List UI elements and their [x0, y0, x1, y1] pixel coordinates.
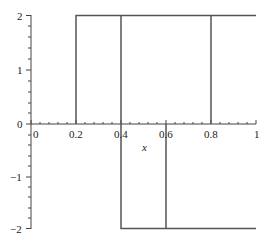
x-ticks [31, 120, 256, 124]
y-tick-label: 0 [17, 118, 23, 130]
y-tick-label: −2 [10, 223, 22, 235]
y-ticks [26, 16, 31, 229]
x-tick-label: 0 [33, 128, 39, 140]
x-tick-label: 0.4 [114, 128, 128, 140]
x-tick-label: 1 [254, 128, 260, 140]
series-step-1 [76, 16, 256, 125]
y-tick-label: 2 [17, 10, 23, 22]
chart: 2 1 0 −1 −2 0 0.2 0.4 0.6 0.8 1 x [0, 0, 270, 244]
x-tick-label: 0.2 [69, 128, 83, 140]
x-tick-label: 0.8 [204, 128, 218, 140]
y-tick-label: −1 [10, 171, 22, 183]
y-tick-label: 1 [17, 64, 23, 76]
series-step-2 [121, 16, 256, 229]
x-tick-label: 0.6 [159, 128, 173, 140]
x-axis-label: x [141, 141, 147, 153]
